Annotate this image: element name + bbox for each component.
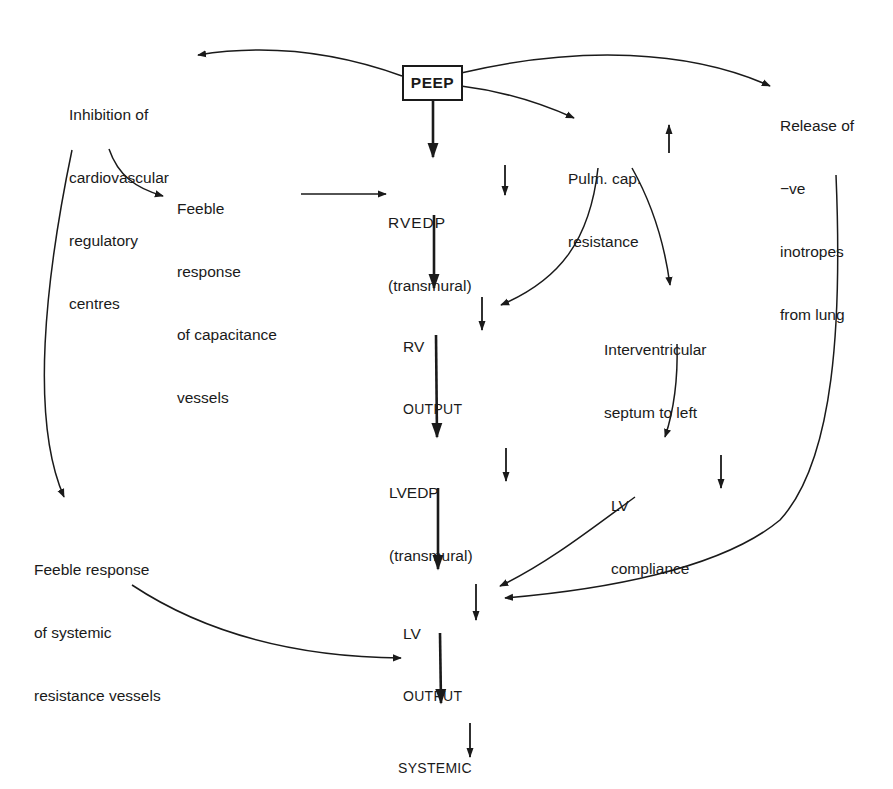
inhibition-line-3: regulatory <box>69 230 169 251</box>
arrow-systemic-vessels-to-pressure <box>132 585 401 658</box>
release-line-3: inotropes <box>780 241 854 262</box>
peep-node: PEEP <box>402 65 463 101</box>
septum-line-1: Interventricular <box>604 339 707 360</box>
rv-output-line-1: RV <box>403 336 462 357</box>
inhibition-node: Inhibition of cardiovascular regulatory … <box>69 62 169 356</box>
peep-label: PEEP <box>411 74 454 92</box>
feeble-capacitance-line-4: vessels <box>177 387 277 408</box>
release-line-1: Release of <box>780 115 854 136</box>
systemic-pressure-line-1: SYSTEMIC <box>398 758 477 779</box>
lv-compliance-line-1: LV <box>611 495 689 516</box>
systemic-pressure-node: SYSTEMIC ARTERIAL PRESSURE <box>398 716 477 789</box>
inhibition-line-1: Inhibition of <box>69 104 169 125</box>
rvedp-line-1: RVEDP <box>388 212 472 233</box>
inhibition-line-2: cardiovascular <box>69 167 169 188</box>
feeble-capacitance-line-1: Feeble <box>177 198 277 219</box>
feeble-systemic-line-1: Feeble response <box>34 559 161 580</box>
release-line-4: from lung <box>780 304 854 325</box>
lv-compliance-line-2: compliance <box>611 558 689 579</box>
pulm-cap-line-2: resistance <box>568 231 641 252</box>
release-node: Release of −ve inotropes from lung <box>780 73 854 367</box>
feeble-capacitance-line-3: of capacitance <box>177 324 277 345</box>
arrow-centres-to-systemic-vessels <box>44 150 72 497</box>
lv-output-line-1: LV <box>403 623 462 644</box>
feeble-systemic-line-2: of systemic <box>34 622 161 643</box>
feeble-systemic-line-3: resistance vessels <box>34 685 161 706</box>
septum-node: Interventricular septum to left <box>604 297 707 465</box>
septum-line-2: septum to left <box>604 402 707 423</box>
arrow-peep-to-inhibition <box>198 50 402 76</box>
peep-effects-flow-diagram: PEEP Inhibition of cardiovascular regula… <box>0 0 893 789</box>
lv-output-line-2: OUTPUT <box>403 686 462 707</box>
arrow-peep-to-release <box>461 55 770 86</box>
rvedp-line-2: (transmural) <box>388 275 472 296</box>
lvedp-line-1: LVEDP <box>389 482 473 503</box>
arrow-peep-to-pulm <box>461 86 574 118</box>
pulm-cap-line-1: Pulm. cap. <box>568 168 641 189</box>
lv-compliance-node: LV compliance <box>611 453 689 621</box>
rv-output-line-2: OUTPUT <box>403 399 462 420</box>
feeble-capacitance-node: Feeble response of capacitance vessels <box>177 156 277 450</box>
feeble-capacitance-line-2: response <box>177 261 277 282</box>
lvedp-line-2: (transmural) <box>389 545 473 566</box>
feeble-systemic-node: Feeble response of systemic resistance v… <box>34 517 161 748</box>
pulm-cap-node: Pulm. cap. resistance <box>568 126 641 294</box>
rv-output-node: RV OUTPUT <box>403 294 462 462</box>
inhibition-line-4: centres <box>69 293 169 314</box>
release-line-2: −ve <box>780 178 854 199</box>
